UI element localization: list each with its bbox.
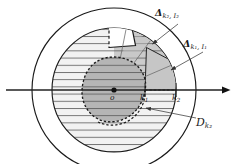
label-region-Dk2-symbol: D xyxy=(196,116,205,129)
label-origin: o xyxy=(110,94,115,102)
label-tick-k1-subscript: 1 xyxy=(145,97,149,103)
origin-point xyxy=(111,87,116,92)
label-delta-k1-I1-subscript: k₁, I₁ xyxy=(190,43,207,51)
label-delta-k2-I2: Δk₂, I₂ xyxy=(155,8,179,19)
label-tick-k2: k2 xyxy=(172,94,181,103)
diagram-canvas xyxy=(0,0,239,164)
label-tick-k2-subscript: 2 xyxy=(177,97,181,103)
label-delta-k2-I2-subscript: k₂, I₂ xyxy=(162,12,179,20)
label-delta-k1-I1: Δk₁, I₁ xyxy=(183,39,207,50)
label-region-Dk2: Dk₂ xyxy=(196,117,212,129)
label-region-Dk2-subscript: k₂ xyxy=(205,121,212,130)
figure-container: Δk₂, I₂ Δk₁, I₁ Dk₂ o k1 k2 xyxy=(0,0,239,164)
label-tick-k1: k1 xyxy=(140,94,149,103)
